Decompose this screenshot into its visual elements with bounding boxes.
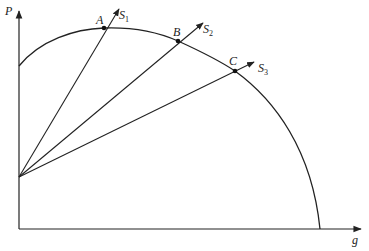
point-b (176, 39, 181, 44)
point-b-label: B (173, 25, 181, 39)
point-c-label: C (229, 54, 238, 68)
y-axis-label: P (4, 4, 13, 18)
frontier-curve (19, 28, 320, 229)
ray-s2-label: S2 (203, 22, 213, 38)
ray-s3-label: S3 (258, 61, 268, 77)
point-c (233, 69, 238, 74)
x-axis-label: g (352, 233, 358, 247)
diagram-canvas: P g A S1 B S2 C S3 (0, 0, 369, 251)
ray-s1-label: S1 (119, 8, 129, 24)
point-a-label: A (95, 13, 104, 27)
